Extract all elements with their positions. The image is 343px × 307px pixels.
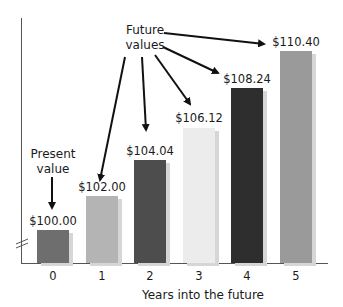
arrow-future-4 — [163, 47, 218, 73]
arrow-future-2 — [142, 57, 146, 130]
arrow-future-5 — [164, 33, 264, 44]
arrow-future-1 — [100, 57, 125, 180]
annotation-arrows — [0, 0, 343, 307]
arrow-future-3 — [155, 55, 190, 104]
bar-chart: $100.00 $102.00 $104.04 $106.12 $108.24 … — [0, 0, 343, 307]
